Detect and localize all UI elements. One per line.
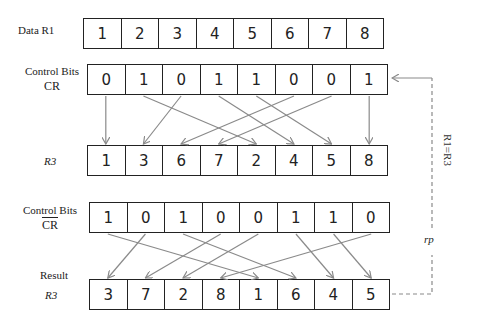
mapping-arrow xyxy=(183,234,258,278)
mapping-arrow xyxy=(181,96,294,144)
mapping-arrow xyxy=(256,96,331,144)
mapping-arrow xyxy=(296,234,334,278)
mapping-arrow xyxy=(143,96,181,144)
arrows-crbar-to-result xyxy=(108,234,371,278)
mapping-arrow xyxy=(108,234,259,278)
feedback-sublabel: rp xyxy=(424,233,434,246)
arrows-overlay xyxy=(0,0,483,330)
mapping-arrow xyxy=(219,96,332,144)
mapping-arrow xyxy=(221,234,372,278)
feedback-dashed-line xyxy=(392,255,432,294)
arrows-cr-to-r3 xyxy=(106,96,369,144)
feedback-label: R1=R3 xyxy=(442,134,454,166)
mapping-arrow xyxy=(143,96,256,144)
mapping-arrow xyxy=(108,234,146,278)
mapping-arrow xyxy=(183,234,296,278)
mapping-arrow xyxy=(219,96,294,144)
mapping-arrow xyxy=(334,234,372,278)
